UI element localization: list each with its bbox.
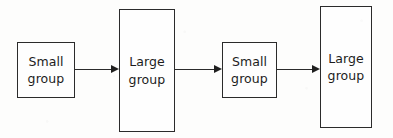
node-label-line-2: group (328, 67, 365, 84)
flow-node-large-group-1[interactable]: Large group (119, 9, 175, 132)
flow-arrow-1 (75, 69, 111, 70)
arrowhead-icon (312, 65, 320, 73)
node-label-line-1: Large (328, 50, 364, 67)
node-label-line-2: group (28, 70, 65, 87)
flow-node-small-group-1[interactable]: Small group (17, 42, 75, 98)
node-label-line-2: group (231, 70, 268, 87)
node-label-line-1: Large (129, 53, 165, 70)
diagram-canvas: Small group Large group Small group Larg… (0, 0, 393, 138)
node-label-line-2: group (129, 71, 166, 88)
node-label-line-1: Small (28, 53, 63, 70)
flow-arrow-3 (277, 69, 312, 70)
flow-node-large-group-2[interactable]: Large group (320, 6, 372, 128)
arrowhead-icon (111, 65, 119, 73)
flow-node-small-group-2[interactable]: Small group (222, 42, 277, 98)
arrowhead-icon (214, 65, 222, 73)
flow-arrow-2 (175, 69, 214, 70)
node-label-line-1: Small (232, 53, 267, 70)
